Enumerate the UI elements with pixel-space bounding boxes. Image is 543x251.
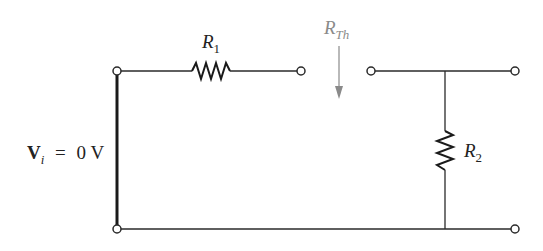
circuit-diagram [0, 0, 543, 251]
terminal-open-left [297, 67, 305, 75]
rth-label: RTh [324, 17, 349, 43]
vi-subscript: i [41, 152, 45, 167]
r1-label: R1 [202, 31, 220, 57]
source-voltage-label: Vi = 0 V [27, 142, 104, 168]
rth-subscript: Th [336, 27, 350, 42]
terminal-input-top [113, 67, 121, 75]
resistor-r1-icon [192, 63, 230, 79]
vi-value: 0 V [77, 142, 105, 163]
terminal-output-top [511, 67, 519, 75]
vi-subscript-text: i [41, 152, 45, 167]
r2-symbol: R [464, 140, 476, 161]
vi-equals: = [55, 142, 66, 163]
vi-symbol: V [27, 142, 41, 163]
rth-arrow-head-icon [335, 86, 343, 99]
r1-symbol: R [202, 31, 214, 52]
terminal-open-right [367, 67, 375, 75]
resistor-r2-icon [437, 131, 453, 170]
r1-subscript: 1 [214, 41, 220, 56]
r2-subscript: 2 [476, 150, 482, 165]
r2-label: R2 [464, 140, 482, 166]
terminal-output-bottom [511, 225, 519, 233]
rth-subscript-text: Th [336, 27, 350, 42]
terminal-input-bottom [113, 225, 121, 233]
rth-symbol: R [324, 17, 336, 38]
